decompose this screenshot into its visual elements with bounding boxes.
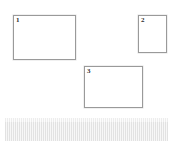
region-box-3[interactable]: 3 (84, 66, 143, 108)
region-box-1-label: 1 (16, 16, 20, 25)
region-box-1[interactable]: 1 (13, 15, 76, 60)
page-canvas: 1 2 3 (0, 0, 179, 141)
region-box-2-label: 2 (141, 16, 145, 25)
region-box-2[interactable]: 2 (138, 15, 167, 53)
striped-bar (5, 118, 168, 141)
striped-bar-top-band (5, 118, 168, 122)
region-box-3-label: 3 (87, 67, 91, 76)
